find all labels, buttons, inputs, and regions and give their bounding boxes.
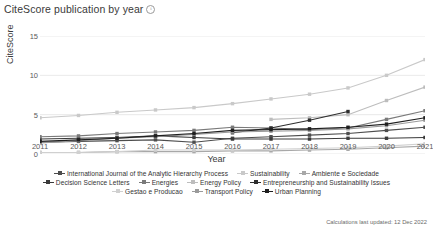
legend-item[interactable]: Energies (139, 179, 178, 186)
series-marker[interactable] (423, 85, 425, 88)
legend-item[interactable]: Energy Policy (187, 179, 241, 186)
series-marker[interactable] (346, 110, 349, 113)
x-tick-label: 2018 (301, 142, 318, 151)
x-tick-label: 2020 (378, 142, 395, 151)
legend-label: Decision Science Letters (56, 179, 130, 186)
series-marker[interactable] (40, 116, 42, 119)
series-marker[interactable] (385, 118, 388, 121)
legend-marker-icon (139, 179, 150, 186)
y-tick-label: 10 (22, 71, 38, 80)
legend-marker-icon (54, 170, 65, 177)
series-marker[interactable] (385, 129, 388, 132)
series-marker[interactable] (308, 133, 311, 136)
legend-item[interactable]: Gestao e Producao (112, 188, 183, 195)
legend-marker-icon (187, 179, 198, 186)
legend-label: Entrepreneurship and Sustainability Issu… (263, 179, 390, 186)
series-marker[interactable] (385, 74, 388, 77)
series-marker[interactable] (154, 108, 157, 111)
legend-item[interactable]: Ambiente e Sociedade (299, 170, 379, 177)
x-tick-label: 2013 (109, 142, 126, 151)
series-marker[interactable] (385, 99, 388, 102)
x-axis-ticks: 2011201220132014201520162017201820192020… (40, 142, 425, 154)
legend-label: Urban Planning (275, 188, 321, 195)
series-marker[interactable] (423, 126, 425, 129)
series-marker[interactable] (154, 130, 157, 133)
series-marker[interactable] (192, 136, 195, 139)
citescore-chart-panel: CiteScore publication by year i CiteScor… (0, 0, 433, 229)
x-tick-label: 2016 (224, 142, 241, 151)
last-updated-note: Calculations last updated: 12 Dec 2022 (326, 219, 427, 225)
series-marker[interactable] (115, 111, 118, 114)
x-tick-label: 2019 (340, 142, 357, 151)
series-marker[interactable] (231, 129, 234, 132)
series-marker[interactable] (77, 114, 80, 117)
series-marker[interactable] (423, 116, 425, 119)
legend-label: Transport Policy (205, 188, 253, 195)
x-tick-label: 2021 (417, 142, 433, 151)
series-marker[interactable] (308, 137, 311, 140)
series-marker[interactable] (192, 129, 195, 132)
legend-label: Sustainability (250, 170, 290, 177)
series-marker[interactable] (346, 113, 349, 116)
series-marker[interactable] (269, 137, 272, 140)
series-marker[interactable] (308, 93, 311, 96)
legend-marker-icon (237, 170, 248, 177)
series-marker[interactable] (423, 136, 425, 139)
series-marker[interactable] (154, 134, 157, 137)
x-axis-title: Year (0, 154, 433, 164)
y-axis-ticks: 051015 (22, 36, 38, 154)
series-marker[interactable] (423, 58, 425, 61)
legend-marker-icon (250, 179, 261, 186)
series-marker[interactable] (115, 137, 118, 140)
y-tick-label: 5 (22, 110, 38, 119)
series-marker[interactable] (231, 102, 234, 105)
legend-item[interactable]: Sustainability (237, 170, 290, 177)
series-1 (40, 58, 425, 120)
series-marker[interactable] (77, 134, 80, 137)
series-marker[interactable] (385, 122, 388, 125)
legend-label: Ambiente e Sociedade (312, 170, 379, 177)
series-marker[interactable] (269, 128, 272, 131)
legend-item[interactable]: Entrepreneurship and Sustainability Issu… (250, 179, 390, 186)
chart-legend: International Journal of the Analytic Hi… (0, 170, 433, 195)
series-marker[interactable] (346, 126, 349, 129)
series-marker[interactable] (192, 132, 195, 135)
series-line (40, 60, 425, 118)
x-tick-label: 2014 (147, 142, 164, 151)
series-marker[interactable] (192, 106, 195, 109)
legend-item[interactable]: Urban Planning (262, 188, 321, 195)
legend-item[interactable]: Transport Policy (192, 188, 253, 195)
legend-label: International Journal of the Analytic Hi… (67, 170, 228, 177)
series-marker[interactable] (115, 132, 118, 135)
series-marker[interactable] (40, 135, 42, 138)
x-tick-label: 2017 (263, 142, 280, 151)
series-marker[interactable] (269, 118, 272, 121)
chart-plot (40, 36, 425, 154)
legend-marker-icon (299, 170, 310, 177)
legend-marker-icon (112, 188, 123, 195)
legend-item[interactable]: International Journal of the Analytic Hi… (54, 170, 228, 177)
series-marker[interactable] (385, 137, 388, 140)
y-tick-label: 15 (22, 32, 38, 41)
series-marker[interactable] (346, 132, 349, 135)
legend-marker-icon (43, 179, 54, 186)
series-marker[interactable] (308, 127, 311, 130)
legend-row: Decision Science LettersEnergiesEnergy P… (43, 179, 390, 186)
series-marker[interactable] (231, 126, 234, 129)
series-marker[interactable] (346, 137, 349, 140)
legend-marker-icon (192, 188, 203, 195)
info-icon[interactable]: i (146, 5, 155, 14)
y-axis-title: CiteScore (5, 24, 15, 64)
series-marker[interactable] (346, 86, 349, 89)
x-tick-label: 2011 (32, 142, 48, 151)
x-tick-label: 2015 (186, 142, 203, 151)
series-marker[interactable] (308, 118, 311, 121)
series-marker[interactable] (231, 137, 234, 140)
series-marker[interactable] (269, 97, 272, 100)
x-tick-label: 2012 (70, 142, 87, 151)
legend-label: Energies (152, 179, 178, 186)
legend-item[interactable]: Decision Science Letters (43, 179, 130, 186)
series-marker[interactable] (423, 109, 425, 112)
legend-marker-icon (262, 188, 273, 195)
page-title: CiteScore publication by year (4, 3, 143, 15)
